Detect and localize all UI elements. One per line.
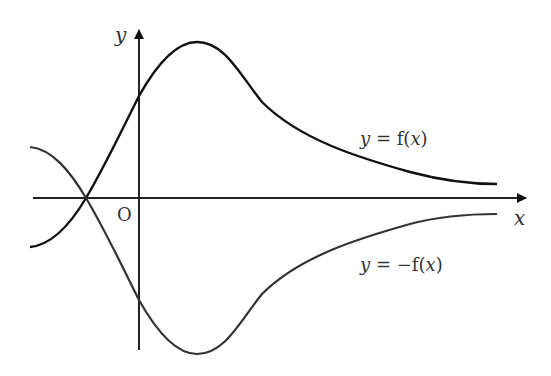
curve-neg-f-label: y = −f(x) [359,254,443,275]
plot-canvas: y x O y = f(x) y = −f(x) [0,0,551,376]
origin-label: O [117,204,132,225]
y-axis-label: y [114,23,127,47]
graph-figure: y x O y = f(x) y = −f(x) [0,0,551,376]
curve-neg-f [30,147,497,354]
curve-f-label: y = f(x) [359,128,428,149]
x-axis-label: x [514,206,525,230]
